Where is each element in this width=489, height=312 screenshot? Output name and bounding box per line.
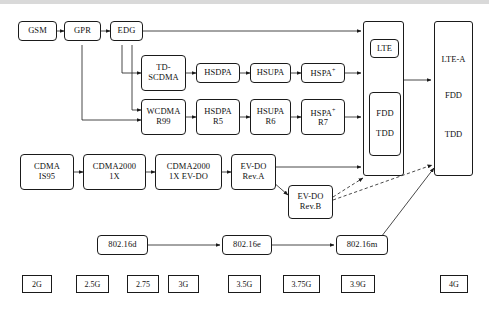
gen-label: 3.75G [292, 280, 312, 289]
node-hsdpa[interactable]: HSDPA [196, 63, 240, 83]
node-cdma2000-1x-evdo[interactable]: CDMA2000 1X EV-DO [155, 154, 222, 190]
gen-label: 2.75 [136, 280, 150, 289]
group-lte-a[interactable]: LTE-A FDD TDD [434, 21, 473, 176]
gen-25g[interactable]: 2.5G [76, 275, 109, 293]
node-label: LTE [377, 44, 392, 54]
lte-a-label: LTE-A [435, 54, 472, 64]
node-lte[interactable]: LTE [370, 39, 399, 58]
lte-a-tdd-label: TDD [435, 129, 472, 139]
node-hsdpa-r5[interactable]: HSDPA R5 [196, 99, 240, 135]
node-td-scdma[interactable]: TD- SCDMA [141, 55, 186, 91]
node-hspa-plus[interactable]: HSPA+ [301, 63, 345, 83]
node-80216m[interactable]: 802.16m [336, 235, 388, 255]
gen-label: 3.9G [350, 280, 366, 289]
lte-a-fdd-label: FDD [435, 90, 472, 100]
node-label: GSM [28, 26, 47, 36]
node-label-line2: 1X EV-DO [169, 172, 208, 182]
node-label-line2: Rev.B [300, 202, 321, 212]
gen-2g[interactable]: 2G [22, 275, 52, 293]
plus-superscript-icon: + [332, 107, 335, 113]
node-label: EDG [118, 26, 136, 36]
node-label-line2: R6 [265, 117, 275, 127]
node-hspa-plus-r7[interactable]: HSPA+ R7 [301, 99, 345, 135]
gen-4g[interactable]: 4G [440, 275, 468, 293]
node-edg[interactable]: EDG [110, 21, 143, 41]
gen-label: 3.5G [237, 280, 253, 289]
node-gsm[interactable]: GSM [18, 21, 57, 41]
node-label-line2: 1X [109, 172, 120, 182]
node-evdo-reva[interactable]: EV-DO Rev.A [231, 154, 276, 190]
gen-375g[interactable]: 3.75G [283, 275, 320, 293]
node-label-line2: R99 [156, 117, 170, 127]
node-label-line2: R7 [318, 118, 328, 128]
node-label-line2: SCDMA [148, 73, 179, 83]
node-hsupa-r6[interactable]: HSUPA R6 [250, 99, 291, 135]
node-label: 802.16d [108, 240, 136, 250]
node-cdma2000-1x[interactable]: CDMA2000 1X [83, 154, 146, 190]
tdd-label: TDD [376, 129, 394, 139]
node-label: 802.16m [347, 240, 378, 250]
diagram-canvas: GSM GPR EDG TD- SCDMA HSDPA HSUPA HSPA+ … [0, 0, 489, 312]
node-hsupa[interactable]: HSUPA [250, 63, 291, 83]
node-label: HSPA+ [311, 67, 336, 78]
node-80216d[interactable]: 802.16d [97, 235, 148, 255]
node-label-line2: IS95 [39, 172, 55, 182]
node-label: GPR [74, 26, 91, 36]
gen-label: 2.5G [85, 280, 101, 289]
node-label-line2: Rev.A [243, 172, 265, 182]
node-wcdma-r99[interactable]: WCDMA R99 [141, 99, 186, 135]
node-label: 802.16e [233, 240, 261, 250]
node-80216e[interactable]: 802.16e [222, 235, 272, 255]
fdd-label: FDD [376, 109, 393, 119]
node-label: HSUPA [257, 68, 285, 78]
node-lte-duplex[interactable]: FDD TDD [369, 92, 401, 156]
gen-label: 3G [179, 280, 189, 289]
plus-superscript-icon: + [332, 67, 335, 73]
node-evdo-revb[interactable]: EV-DO Rev.B [288, 185, 333, 219]
gen-3g[interactable]: 3G [168, 275, 199, 293]
node-label: HSDPA [204, 68, 232, 78]
gen-275[interactable]: 2.75 [127, 275, 159, 293]
gen-39g[interactable]: 3.9G [341, 275, 375, 293]
gen-35g[interactable]: 3.5G [228, 275, 261, 293]
gen-label: 4G [449, 280, 459, 289]
node-cdma-is95[interactable]: CDMA IS95 [20, 154, 74, 190]
node-label-line2: R5 [213, 117, 223, 127]
gen-label: 2G [32, 280, 42, 289]
node-gpr[interactable]: GPR [64, 21, 101, 41]
